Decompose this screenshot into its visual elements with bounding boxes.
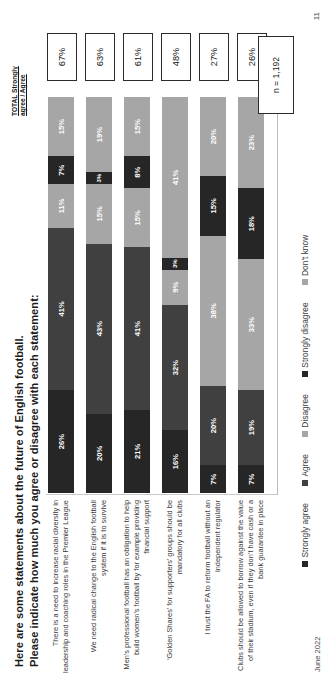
bar-segment-value: 15% xyxy=(209,198,218,213)
bar-segment-value: 41% xyxy=(57,301,66,316)
bar-segment-value: 11% xyxy=(57,199,66,214)
statement-label: Clubs should be allowed to borrow agains… xyxy=(236,500,265,675)
bar-segment-value: 33% xyxy=(247,317,256,332)
bar-segment: 15% xyxy=(124,188,150,247)
bar-segment: 32% xyxy=(162,305,188,430)
statement-label: There is a need to increase racial diver… xyxy=(51,500,71,675)
bar-segment: 19% xyxy=(86,97,112,172)
bar-segment-value: 15% xyxy=(95,206,104,221)
bar-segment: 41% xyxy=(162,97,188,258)
legend-label: Agree xyxy=(300,454,310,476)
bar-segment: 33% xyxy=(238,259,264,390)
legend-item: Strongly agree xyxy=(300,503,310,567)
total-header-line-1: TOTAL Strongly xyxy=(11,66,18,116)
bar-segment: 15% xyxy=(200,176,226,235)
total-agree-box: 61% xyxy=(123,33,153,81)
bar-segment-value: 15% xyxy=(57,119,66,134)
bar-segment: 9% xyxy=(162,270,188,305)
legend-swatch-icon xyxy=(302,279,308,285)
bar-segment: 26% xyxy=(48,390,74,493)
stacked-bar: 26%41%11%7%15% xyxy=(48,97,74,493)
sample-size-label: n = 1,192 xyxy=(271,57,281,93)
bar-segment-value: 7% xyxy=(209,474,218,485)
bar-segment-value: 23% xyxy=(247,135,256,150)
bar-segment-value: 7% xyxy=(247,474,256,485)
bar-segment-value: 19% xyxy=(95,127,104,142)
total-agree-value: 67% xyxy=(57,48,67,66)
slide-canvas: Here are some statements about the futur… xyxy=(0,0,330,685)
page-title: Here are some statements about the futur… xyxy=(12,197,43,667)
statement-label: We need radical change to the English fo… xyxy=(89,500,109,675)
total-agree-value: 27% xyxy=(209,48,219,66)
bar-segment: 11% xyxy=(48,184,74,228)
chart-row: ‘Golden Shares’ for supporters’ groups s… xyxy=(160,0,190,685)
bar-segment: 43% xyxy=(86,244,112,414)
bar-segment-value: 15% xyxy=(133,119,142,134)
bar-segment-value: 3% xyxy=(172,259,178,268)
title-line-2: Please indicate how much you agree or di… xyxy=(27,197,42,667)
statement-label: Men's professional football has an oblig… xyxy=(122,500,151,675)
legend-item: Don't know xyxy=(300,235,310,286)
bar-segment-value: 20% xyxy=(95,446,104,461)
total-column-header: TOTAL Strongly agree / Agree xyxy=(11,46,27,116)
bar-segment: 20% xyxy=(86,414,112,493)
bar-segment-value: 20% xyxy=(209,418,218,433)
legend-label: Don't know xyxy=(300,235,310,276)
bar-segment-value: 16% xyxy=(171,454,180,469)
bar-segment: 38% xyxy=(200,236,226,386)
chart-row: There is a need to increase racial diver… xyxy=(46,0,76,685)
statement-label: ‘Golden Shares’ for supporters’ groups s… xyxy=(165,500,185,675)
total-agree-value: 61% xyxy=(133,48,143,66)
bar-segment: 16% xyxy=(162,430,188,493)
bar-segment-value: 7% xyxy=(57,165,66,176)
legend-item: Strongly disagree xyxy=(300,302,310,377)
chart-legend: Strongly agreeAgreeDisagreeStrongly disa… xyxy=(300,235,310,567)
bar-segment: 3% xyxy=(86,172,112,184)
bar-segment: 3% xyxy=(162,258,188,270)
bar-segment-value: 21% xyxy=(133,444,142,459)
legend-item: Agree xyxy=(300,454,310,486)
chart-row: I trust the FA to reform football withou… xyxy=(198,0,228,685)
stacked-bar: 16%32%9%3%41% xyxy=(162,97,188,493)
legend-item: Disagree xyxy=(300,394,310,437)
legend-label: Disagree xyxy=(300,394,310,428)
bar-segment: 15% xyxy=(124,97,150,156)
bar-segment-value: 18% xyxy=(247,216,256,231)
legend-swatch-icon xyxy=(302,480,308,486)
title-line-1: Here are some statements about the futur… xyxy=(13,335,25,667)
bar-segment: 7% xyxy=(200,465,226,493)
bar-segment-value: 15% xyxy=(133,210,142,225)
legend-label: Strongly agree xyxy=(300,503,310,557)
bar-segment-value: 41% xyxy=(133,321,142,336)
bar-segment-value: 8% xyxy=(133,167,142,178)
bar-segment-value: 41% xyxy=(171,170,180,185)
stacked-bar: 20%43%15%3%19% xyxy=(86,97,112,493)
bar-segment-value: 19% xyxy=(247,420,256,435)
total-agree-value: 48% xyxy=(171,48,181,66)
total-agree-value: 63% xyxy=(95,48,105,66)
stacked-bar: 21%41%15%8%15% xyxy=(124,97,150,493)
bar-segment-value: 9% xyxy=(171,282,180,293)
bar-segment: 19% xyxy=(238,390,264,465)
bar-segment: 7% xyxy=(48,156,74,184)
bar-segment: 7% xyxy=(238,465,264,493)
bar-segment-value: 20% xyxy=(209,129,218,144)
total-agree-box: 27% xyxy=(199,33,229,81)
chart-row: Men's professional football has an oblig… xyxy=(122,0,152,685)
bar-segment-value: 38% xyxy=(209,303,218,318)
stacked-bar-chart: There is a need to increase racial diver… xyxy=(46,0,278,685)
bar-segment-value: 32% xyxy=(171,360,180,375)
legend-swatch-icon xyxy=(302,371,308,377)
bar-segment: 20% xyxy=(200,97,226,176)
bar-segment: 21% xyxy=(124,410,150,493)
bar-segment-value: 3% xyxy=(96,174,102,183)
legend-swatch-icon xyxy=(302,561,308,567)
bar-segment-value: 26% xyxy=(57,434,66,449)
bar-segment: 15% xyxy=(86,184,112,243)
legend-label: Strongly disagree xyxy=(300,302,310,367)
sample-size-box: n = 1,192 xyxy=(258,36,294,114)
total-agree-box: 48% xyxy=(161,33,191,81)
stacked-bar: 7%19%33%18%23% xyxy=(238,97,264,493)
bar-segment: 41% xyxy=(124,247,150,409)
survey-slide: Here are some statements about the futur… xyxy=(0,0,330,685)
